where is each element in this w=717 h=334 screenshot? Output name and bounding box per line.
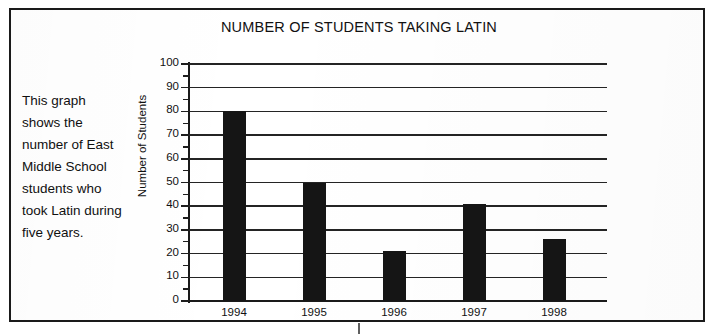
y-axis-major-tick bbox=[181, 253, 189, 255]
y-axis-tick-label: 40 bbox=[153, 198, 179, 210]
x-axis-label-1998: 1998 bbox=[524, 306, 584, 318]
y-axis-minor-tick bbox=[183, 170, 189, 171]
gridline bbox=[189, 205, 607, 207]
y-axis-minor-tick bbox=[183, 288, 189, 289]
y-axis-major-tick bbox=[181, 111, 189, 113]
y-axis-tick-label: 90 bbox=[153, 80, 179, 92]
y-axis-tick-label: 100 bbox=[153, 56, 179, 68]
bar-1998 bbox=[543, 239, 566, 301]
y-axis-tick-label: 60 bbox=[153, 151, 179, 163]
y-axis-minor-tick bbox=[183, 194, 189, 195]
gridline bbox=[189, 134, 607, 136]
bar-1997 bbox=[463, 204, 486, 301]
y-axis-major-tick bbox=[181, 229, 189, 231]
y-axis-minor-tick bbox=[183, 75, 189, 76]
x-axis-label-1997: 1997 bbox=[444, 306, 504, 318]
y-axis-tick-label: 70 bbox=[153, 127, 179, 139]
gridline bbox=[189, 63, 607, 65]
x-axis-label-1994: 1994 bbox=[204, 306, 264, 318]
y-axis-major-tick bbox=[181, 300, 189, 302]
page-fold-mark bbox=[358, 323, 360, 334]
gridline bbox=[189, 111, 607, 113]
y-axis-major-tick bbox=[181, 134, 189, 136]
y-axis-tick-label: 80 bbox=[153, 103, 179, 115]
y-axis-major-tick bbox=[181, 63, 189, 65]
y-axis-minor-tick bbox=[183, 146, 189, 147]
x-axis-label-1996: 1996 bbox=[364, 306, 424, 318]
y-axis-tick-label: 0 bbox=[153, 293, 179, 305]
y-axis-major-tick bbox=[181, 205, 189, 207]
gridline bbox=[189, 158, 607, 160]
gridline bbox=[189, 87, 607, 89]
y-axis-major-tick bbox=[181, 158, 189, 160]
bar-1996 bbox=[383, 251, 406, 301]
y-axis-major-tick bbox=[181, 182, 189, 184]
y-axis-tick-label: 30 bbox=[153, 222, 179, 234]
x-axis-label-1995: 1995 bbox=[284, 306, 344, 318]
y-axis-minor-tick bbox=[183, 241, 189, 242]
y-axis-tick-label: 10 bbox=[153, 269, 179, 281]
worksheet-frame: NUMBER OF STUDENTS TAKING LATIN This gra… bbox=[9, 8, 705, 322]
gridline bbox=[189, 229, 607, 231]
y-axis-minor-tick bbox=[183, 217, 189, 218]
bar-1994 bbox=[223, 111, 246, 301]
y-axis-major-tick bbox=[181, 87, 189, 89]
y-axis-title: Number of Students bbox=[136, 86, 148, 206]
gridline bbox=[189, 182, 607, 184]
bar-chart-plot-area: Number of Students 010203040506070809010… bbox=[11, 10, 707, 324]
y-axis-major-tick bbox=[181, 277, 189, 279]
y-axis-minor-tick bbox=[183, 265, 189, 266]
y-axis-tick-label: 50 bbox=[153, 175, 179, 187]
y-axis-minor-tick bbox=[183, 99, 189, 100]
y-axis-tick-label: 20 bbox=[153, 246, 179, 258]
bar-1995 bbox=[303, 183, 326, 302]
y-axis-minor-tick bbox=[183, 123, 189, 124]
